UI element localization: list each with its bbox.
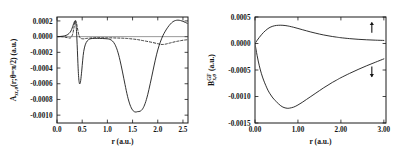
right-xtick-label-1: 1.00: [292, 126, 305, 134]
figure-root: 0.00020.0000-0.0002-0.0004-0.0006-0.0008…: [0, 0, 397, 162]
right-ytick-label-3: -0.0010: [228, 93, 251, 101]
right-plot-frame: [255, 17, 386, 123]
right-curves-group: [255, 25, 384, 108]
right-ytick-label-4: -0.0015: [228, 120, 251, 128]
left-curves-group: [57, 20, 188, 112]
left-xtick-label-5: 2.5: [178, 126, 187, 134]
spin-up-arrow: [370, 22, 374, 33]
left-xtick-label-3: 1.5: [128, 126, 137, 134]
right-yaxis-title: BGFx,σ (a.u.): [206, 54, 217, 86]
spin-down-arrow: [370, 66, 374, 77]
left-xtick-label-4: 2.0: [153, 126, 162, 134]
right-xtick-label-2: 2.00: [335, 126, 348, 134]
left-ytick-label-0: 0.0002: [33, 18, 53, 26]
right-xaxis-title: r (a.u.): [309, 137, 331, 146]
right-plot-panel: 0.00050.0000-0.0005-0.0010-0.00150.001.0…: [198, 0, 397, 162]
right-ytick-label-2: -0.0005: [228, 67, 251, 75]
left-xtick-label-0: 0.0: [53, 126, 62, 134]
left-plot-panel: 0.00020.0000-0.0002-0.0004-0.0006-0.0008…: [0, 0, 198, 162]
left-xtick-label-1: 0.5: [78, 126, 87, 134]
right-xtick-label-3: 3.00: [378, 126, 391, 134]
left-ytick-label-2: -0.0002: [30, 49, 53, 57]
left-curve-solid: [57, 20, 188, 112]
left-ytick-label-3: -0.0004: [30, 65, 53, 73]
right-curve-spin-down: [255, 44, 384, 109]
spin-up-arrow-head: [370, 22, 374, 25]
left-ytick-label-4: -0.0006: [30, 80, 53, 88]
right-xtick-label-0: 0.00: [249, 126, 262, 134]
right-ytick-label-0: 0.0005: [231, 14, 251, 22]
spin-down-arrow-head: [370, 74, 374, 77]
left-xtick-label-2: 1.0: [103, 126, 112, 134]
left-yaxis-title: Axc,σ(r;θ=π/2) (a.u.): [9, 38, 19, 101]
left-plot-svg: 0.00020.0000-0.0002-0.0004-0.0006-0.0008…: [0, 0, 198, 162]
right-ytick-label-1: 0.0000: [231, 40, 251, 48]
left-ytick-label-5: -0.0008: [30, 96, 53, 104]
right-plot-svg: 0.00050.0000-0.0005-0.0010-0.00150.001.0…: [198, 0, 397, 162]
left-ytick-label-6: -0.0010: [30, 112, 53, 120]
left-ytick-label-1: 0.0000: [33, 33, 53, 41]
left-xaxis-title: r (a.u.): [111, 137, 133, 146]
right-curve-spin-up: [255, 25, 384, 43]
